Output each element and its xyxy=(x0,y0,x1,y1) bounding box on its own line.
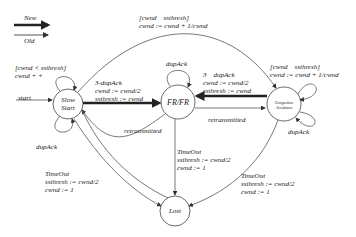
ca-loop-label: [cwnd ssthresh] cwnd := cwnd + 1/cwnd xyxy=(270,63,339,79)
start-label: start xyxy=(18,94,31,102)
ss-timeout-label: TimeOut ssthresh := cwnd/2 cwnd := 1 xyxy=(45,170,98,194)
top-arc-label: [cwnd ssthresh] cwnd := cwnd + 1/cwnd xyxy=(139,14,208,30)
frfr-label: FR/FR xyxy=(161,96,195,108)
frfr-timeout-label: TimeOut ssthresh := cwnd/2 cwnd := 1 xyxy=(177,148,230,172)
ss-dupack-label: dupAck xyxy=(36,143,57,151)
lost-label: Lost xyxy=(162,205,188,217)
ss-to-frfr-label: 3-dupAck cwnd := cwnd/2 ssthresh := cwnd xyxy=(95,79,143,103)
ca-timeout-label: TimeOut ssthresh := cwnd/2 cwnd := 1 xyxy=(241,172,294,196)
legend-new-label: New xyxy=(24,14,36,22)
ca-label: Congestion Avoidance xyxy=(268,98,300,112)
frfr-to-ss-label: retransmitted xyxy=(124,127,161,135)
ca-to-frfr-label: 3 dupAck cwnd := cwnd/2 ssthresh := cwnd xyxy=(203,71,251,95)
ca-dupack-label: dupAck xyxy=(288,128,309,136)
legend-old-label: Old xyxy=(24,37,35,45)
frfr-loop-label: dupAck xyxy=(166,60,187,68)
ss-loop-label: [cwnd < ssthresh] cwnd + + xyxy=(15,64,66,80)
frfr-to-ca-label: retransmitted xyxy=(208,116,245,124)
slow-start-label: Slow Start xyxy=(53,93,83,115)
diagram-canvas xyxy=(0,0,356,237)
